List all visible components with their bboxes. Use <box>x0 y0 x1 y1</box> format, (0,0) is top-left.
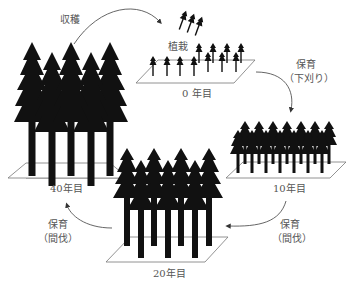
label-year0: 0 年目 <box>182 88 212 100</box>
stand-year20 <box>106 148 228 262</box>
label-planting: 植栽 <box>168 41 188 53</box>
forest-cycle-diagram: 収穫 植栽 0 年目 保育 （下刈り） 10年目 保育 （間伐） 20年目 40… <box>0 0 348 281</box>
stand-year40 <box>8 42 128 186</box>
label-year20: 20年目 <box>153 268 186 280</box>
stand-year10 <box>226 121 346 178</box>
label-care-3-sub: （間伐） <box>38 233 78 245</box>
label-care-1-sub: （下刈り） <box>284 73 334 85</box>
arrow-thinning-10-20 <box>228 201 286 226</box>
label-year40: 40年目 <box>50 183 83 195</box>
label-care-2-sub: （間伐） <box>272 233 312 245</box>
stand-year0 <box>136 10 255 83</box>
arrow-harvest <box>74 9 160 44</box>
label-care-3: 保育 <box>48 219 68 231</box>
label-care-1: 保育 <box>296 59 316 71</box>
arrow-thinning-20-40 <box>67 205 112 228</box>
label-care-2: 保育 <box>280 219 300 231</box>
label-year10: 10年目 <box>273 183 306 195</box>
label-harvest: 収穫 <box>60 14 80 26</box>
